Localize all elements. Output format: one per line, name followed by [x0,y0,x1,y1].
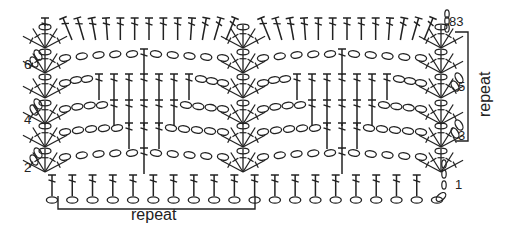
dc-stem [77,18,84,40]
row3-chain [98,124,110,132]
row6-chain [307,50,319,58]
turning-chain [32,49,43,62]
shell-crossbar [430,110,436,114]
shell-crossbar [430,34,436,38]
row2-chain [257,153,269,161]
row3-dc [140,123,148,149]
row4-chain [71,103,83,111]
row3-chain [415,128,427,136]
row5-dc [155,74,163,100]
top-dc [202,17,210,40]
row4-dc [323,100,331,126]
row1-dc [109,175,117,196]
foundation-chain [168,197,179,203]
row5-chain [59,79,71,87]
top-dc [329,18,337,40]
top-dc [412,17,422,40]
foundation-chain [411,197,422,203]
row1-dc [170,175,178,196]
shell-row7 [23,24,67,48]
shell-crossbar [50,158,56,162]
row1-dc [230,175,238,196]
dc-stem [275,18,282,40]
row6-chain [324,50,336,58]
row6-chain [291,51,303,59]
foundation-chain [107,197,118,203]
row3-dc [353,123,361,149]
row1-dc [332,175,340,196]
row2-chain [415,153,427,161]
shell-crossbar [232,110,238,114]
foundation-chain [330,197,341,203]
dc-cap [88,17,96,18]
turning-chain [32,98,43,111]
row5-chain [415,79,427,87]
shell-crossbar [232,59,238,63]
dc-crossbar [89,23,96,24]
shell-row4 [221,100,265,124]
dc-crossbar [287,23,294,24]
row6-chain [348,50,360,58]
top-dc [343,18,351,40]
row4-dc [368,100,376,126]
shell-crossbar [430,133,436,137]
row5-chain [217,79,229,87]
shell-row5 [221,74,265,98]
foundation-chain [188,197,199,203]
row2-chain [167,150,179,158]
row3-chain [270,126,282,134]
row1-dc [129,175,137,196]
row-label-4: 4 [24,113,31,126]
shell-crossbar [232,84,238,88]
row4-chain [84,102,96,110]
dc-cap [300,18,308,19]
row2-chain [217,153,229,161]
row3-dc [155,123,163,149]
shell-crossbar [430,84,436,88]
repeat-label-right: repeat [477,72,493,117]
row1-dc [392,175,400,196]
foundation-chain [350,197,361,203]
row4-dc [140,100,148,126]
row1-dc [210,175,218,196]
row2-chain [126,149,138,157]
row6-chain [76,52,88,60]
foundation-chain [290,197,301,203]
row2-chain [324,149,336,157]
dc-crossbar [103,23,110,25]
row1-dc [372,175,380,196]
shell-row6 [221,49,265,73]
row5-chain [70,76,82,84]
shell-row3 [221,123,265,147]
row4-dc [125,100,133,126]
row1-dc [89,175,97,196]
row6-chain [382,52,394,60]
row5-dc [383,74,391,100]
dc-stem [290,18,294,40]
row5-dc [323,74,331,100]
top-dc [102,18,110,40]
row2-dc [140,148,148,174]
row5-chain [268,76,280,84]
row6-chain [126,50,138,58]
row4-chain [205,104,217,112]
row2-chain [184,151,196,159]
shell-crossbar [248,133,254,137]
dc-stem [412,18,419,40]
shell-crossbar [34,84,40,88]
row6-chain [217,54,229,62]
row5-chain [195,75,207,83]
dc-cap [202,17,210,18]
row3-dc [338,123,346,149]
row5-dc [140,74,148,100]
top-dc [88,17,97,40]
dc-stem [202,18,206,40]
top-dc [386,18,394,40]
shell-crossbar [430,59,436,63]
top-dc [372,18,380,40]
row5-chain [81,75,93,83]
foundation-chain [269,197,280,203]
row3-chain [85,125,97,133]
row6-chain [274,52,286,60]
foundation-chain [87,197,98,203]
